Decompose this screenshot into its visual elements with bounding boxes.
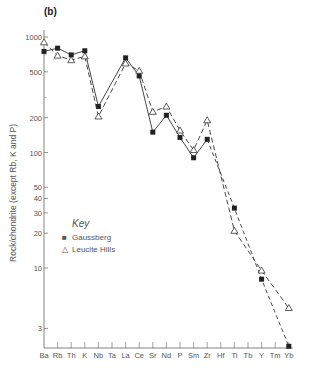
x-tick-label: Ce [134, 351, 144, 360]
panel-label: (b) [44, 6, 57, 17]
gaussberg-point [164, 113, 169, 118]
gaussberg-point [286, 344, 291, 349]
leucite-hills-point [81, 53, 88, 59]
leucite-hills-point [177, 127, 184, 133]
leucite-hills-point [149, 108, 156, 114]
legend-title: Key [72, 218, 115, 229]
leucite-hills-point [54, 52, 61, 58]
y-tick-label: 500 [29, 68, 42, 77]
x-tick-label: Ti [231, 351, 237, 360]
x-tick-label: Rb [53, 351, 63, 360]
legend: Key ■ Gaussberg △ Leucite Hills [62, 218, 115, 255]
y-tick-label: 30 [34, 209, 42, 218]
y-tick-label: 200 [29, 114, 42, 123]
x-tick-label: Sr [149, 351, 157, 360]
x-tick-label: Yb [284, 351, 293, 360]
legend-item-gaussberg: ■ Gaussberg [62, 231, 115, 243]
x-tick-label: K [82, 351, 87, 360]
y-tick-label: 1000 [25, 33, 42, 42]
y-tick-label: 40 [34, 194, 42, 203]
gaussberg-point [191, 155, 196, 160]
open-triangle-icon: △ [62, 245, 72, 254]
x-tick-label: Zr [204, 351, 212, 360]
leucite-hills-point [136, 67, 143, 73]
x-tick-label: Hf [217, 351, 225, 360]
x-tick-label: Nb [94, 351, 104, 360]
x-tick-label: Ba [39, 351, 49, 360]
legend-item-leucite-hills: △ Leucite Hills [62, 243, 115, 255]
gaussberg-point [205, 137, 210, 142]
x-tick-label: Tm [270, 351, 281, 360]
x-tick-label: P [177, 351, 182, 360]
x-tick-label: Y [259, 351, 264, 360]
y-tick-label: 3 [38, 324, 42, 333]
leucite-hills-point [190, 147, 197, 153]
leucite-hills-point [285, 305, 292, 311]
gaussberg-point [137, 73, 142, 78]
y-tick-label: 10 [34, 264, 42, 273]
leucite-hills-point [204, 117, 211, 123]
y-axis-label: Rock/chondrite (except Rb, K and P) [8, 108, 18, 278]
x-tick-label: La [121, 351, 130, 360]
y-tick-label: 20 [34, 229, 42, 238]
y-tick-label: 100 [29, 149, 42, 158]
gaussberg-point [259, 277, 264, 282]
leucite-hills-point [231, 227, 238, 233]
gaussberg-point [55, 46, 60, 51]
gaussberg-point [150, 130, 155, 135]
gaussberg-point [178, 135, 183, 140]
gaussberg-point [42, 49, 47, 54]
y-tick-label: 50 [34, 183, 42, 192]
x-tick-label: Nd [162, 351, 172, 360]
x-tick-label: Tb [244, 351, 253, 360]
x-tick-label: Sm [188, 351, 199, 360]
leucite-hills-point [258, 267, 265, 273]
spider-diagram: 310203040501002005001000BaRbThKNbTaLaCeS… [0, 0, 313, 385]
gaussberg-point [232, 206, 237, 211]
leucite-hills-point [163, 103, 170, 109]
leucite-hills-point [95, 113, 102, 119]
filled-square-icon: ■ [62, 233, 72, 242]
x-tick-label: Ta [108, 351, 117, 360]
x-tick-label: Th [67, 351, 76, 360]
